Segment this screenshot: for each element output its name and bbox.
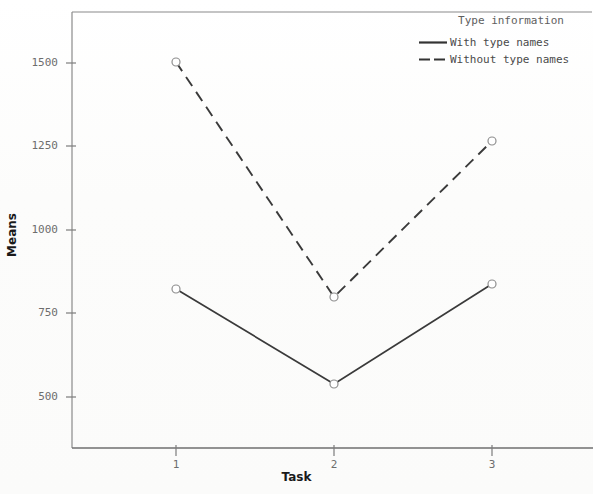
y-tick-label-750: 750 — [12, 306, 58, 319]
y-axis-ticks — [66, 63, 76, 397]
series-without-type-names — [172, 58, 496, 301]
legend-item-without-type-names: Without type names — [418, 51, 590, 68]
y-axis-title: Means — [5, 205, 19, 265]
legend: Type information With type names Without… — [418, 14, 590, 68]
legend-title: Type information — [432, 14, 590, 27]
legend-label-with-type-names: With type names — [450, 36, 549, 49]
x-axis-ticks — [176, 445, 492, 456]
legend-label-without-type-names: Without type names — [450, 53, 569, 66]
y-tick-label-1500: 1500 — [12, 56, 58, 69]
legend-item-with-type-names: With type names — [418, 34, 590, 51]
line-chart-canvas — [0, 0, 593, 494]
legend-solid-line-icon — [418, 37, 448, 48]
y-tick-label-1250: 1250 — [12, 139, 58, 152]
y-tick-label-500: 500 — [12, 390, 58, 403]
x-axis-title: Task — [0, 470, 593, 484]
legend-dashed-line-icon — [418, 54, 448, 65]
chart-page: 1500 1250 1000 750 500 1 2 3 Means Task … — [0, 0, 593, 494]
